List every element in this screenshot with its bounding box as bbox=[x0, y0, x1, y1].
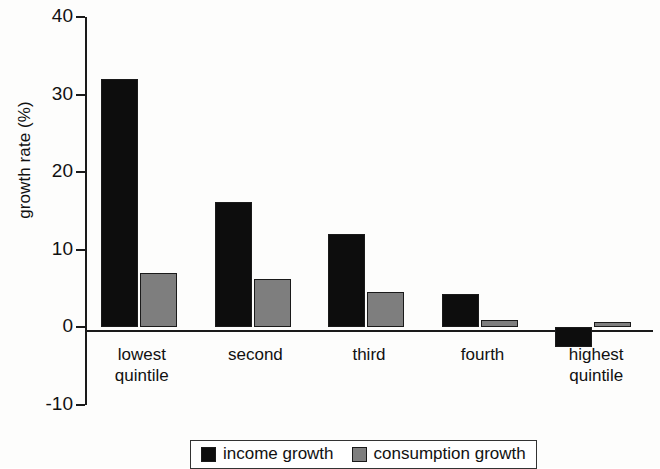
y-tick-mark bbox=[76, 94, 85, 96]
y-tick-label: 40 bbox=[52, 5, 73, 27]
y-tick-mark bbox=[76, 404, 85, 406]
legend-label-income-growth: income growth bbox=[223, 444, 334, 464]
y-tick-label: 0 bbox=[62, 315, 73, 337]
y-tick-mark bbox=[76, 171, 85, 173]
x-axis-label: fourth bbox=[426, 344, 540, 365]
bar-income bbox=[328, 234, 365, 327]
bar-consumption bbox=[254, 279, 291, 328]
legend-swatch-consumption-icon bbox=[352, 447, 367, 462]
legend-swatch-income-icon bbox=[201, 447, 216, 462]
bar-consumption bbox=[140, 273, 177, 327]
y-tick-mark bbox=[76, 326, 85, 328]
y-tick-mark bbox=[76, 249, 85, 251]
bar-income bbox=[442, 294, 479, 327]
y-tick-label: 20 bbox=[52, 160, 73, 182]
x-axis-label: highest quintile bbox=[539, 344, 653, 386]
plot-area: 403020100-10 lowest quintilesecondthirdf… bbox=[85, 17, 653, 405]
y-tick-label: 30 bbox=[52, 83, 73, 105]
bar-consumption bbox=[367, 292, 404, 328]
x-axis-label: second bbox=[199, 344, 313, 365]
legend: income growth consumption growth bbox=[190, 440, 537, 469]
legend-label-consumption-growth: consumption growth bbox=[374, 444, 526, 464]
y-tick-mark bbox=[76, 16, 85, 18]
bar-consumption bbox=[594, 322, 631, 327]
bar-income bbox=[101, 79, 138, 327]
y-tick-label: 10 bbox=[52, 238, 73, 260]
legend-item-consumption-growth: consumption growth bbox=[352, 444, 526, 464]
legend-item-income-growth: income growth bbox=[201, 444, 334, 464]
bar-income bbox=[215, 202, 252, 328]
y-axis-title: growth rate (%) bbox=[15, 60, 35, 260]
bar-consumption bbox=[481, 320, 518, 328]
x-axis-label: third bbox=[312, 344, 426, 365]
x-axis-label: lowest quintile bbox=[85, 344, 199, 386]
y-tick-label: -10 bbox=[46, 393, 73, 415]
